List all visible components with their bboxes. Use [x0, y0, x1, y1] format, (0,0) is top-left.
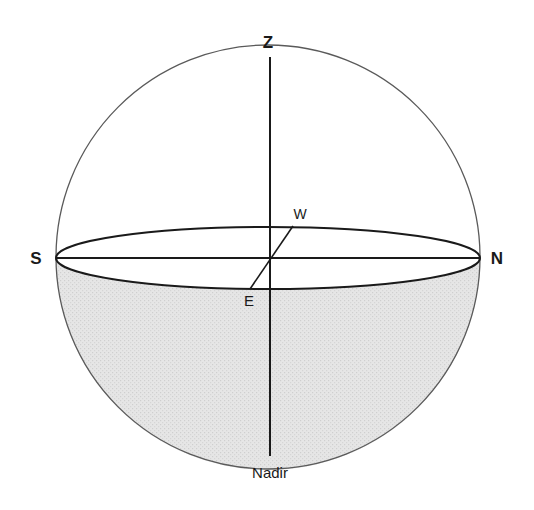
- nadir-label: Nadir: [252, 464, 288, 481]
- east-label: E: [244, 292, 254, 309]
- north-label: N: [491, 249, 503, 268]
- zenith-label: Z: [263, 33, 273, 52]
- celestial-sphere-diagram: Z S N W E Nadir: [0, 0, 534, 510]
- south-label: S: [30, 249, 41, 268]
- west-label: W: [293, 206, 307, 222]
